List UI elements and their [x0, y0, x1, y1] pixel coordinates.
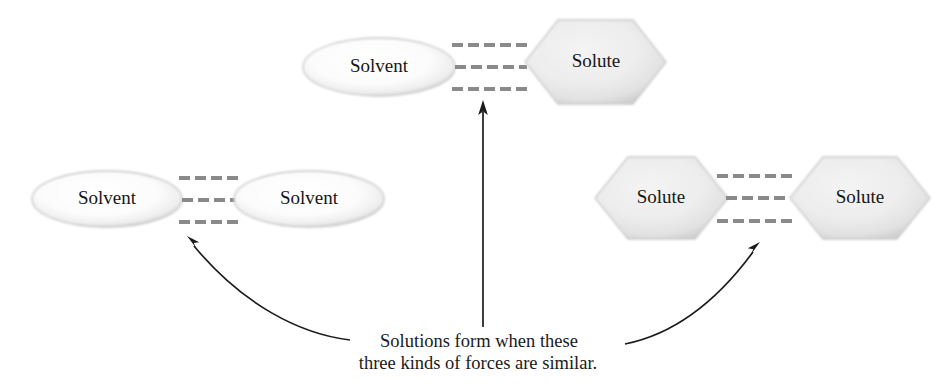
node-label-left-solvent-a: Solvent [78, 187, 137, 208]
pointer-center-vertical-arrow [478, 100, 488, 327]
group-solvent-solvent: Solvent Solvent [32, 171, 384, 227]
group-solute-solute: Solute Solute [595, 157, 930, 239]
arrowhead-icon [748, 242, 760, 255]
pointer-shaft [625, 252, 753, 344]
bonds-solvent-solute [452, 45, 530, 89]
caption-line-2: three kinds of forces are similar. [359, 353, 597, 373]
bonds-solute-solute [717, 176, 797, 221]
node-label-right-solute-b: Solute [836, 186, 885, 207]
node-right-solute-b-hexagon: Solute [790, 157, 930, 239]
group-solvent-solute: Solvent Solute [303, 20, 666, 104]
caption: Solutions form when these three kinds of… [359, 331, 597, 373]
node-label-top-solute: Solute [572, 50, 621, 71]
diagram-canvas: Solvent Solute Solvent [0, 0, 945, 387]
intermolecular-forces-diagram: Solvent Solute Solvent [0, 0, 945, 387]
node-label-left-solvent-b: Solvent [280, 187, 339, 208]
node-top-solute-hexagon: Solute [525, 20, 666, 104]
node-label-right-solute-a: Solute [637, 186, 686, 207]
pointer-right-curved-arrow [625, 242, 760, 344]
pointer-left-curved-arrow [187, 236, 350, 340]
node-top-solvent-ellipse: Solvent [303, 38, 455, 96]
node-right-solute-a-hexagon: Solute [595, 157, 728, 239]
caption-line-1: Solutions form when these [380, 331, 578, 351]
node-left-solvent-b-ellipse: Solvent [234, 171, 384, 227]
pointer-shaft [194, 246, 350, 340]
node-label-top-solvent: Solvent [350, 55, 409, 76]
arrowhead-icon [187, 236, 199, 249]
node-left-solvent-a-ellipse: Solvent [32, 171, 182, 227]
